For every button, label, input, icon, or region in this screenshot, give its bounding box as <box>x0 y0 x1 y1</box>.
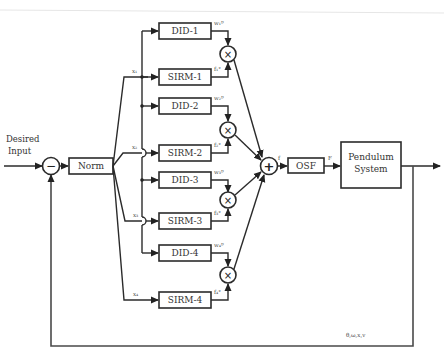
x2-label: x₂ <box>132 144 137 150</box>
w4-line <box>211 253 228 266</box>
f2-label: f₂° <box>214 142 221 148</box>
f3-label: f₃° <box>214 210 221 216</box>
multiply-sign: × <box>224 270 232 281</box>
block-diagram: Desired Input − Norm x₁ x₂ x₃ x₄ DID-1 S… <box>0 0 444 364</box>
bus-hop-x3 <box>142 217 146 225</box>
x3-label: x₃ <box>133 212 138 218</box>
f-label: f <box>278 155 281 161</box>
did-2-block: DID-2 <box>159 98 211 114</box>
sum-junction: + <box>261 158 278 175</box>
did-3-block: DID-3 <box>159 172 211 188</box>
f4-label: f₄° <box>214 289 221 295</box>
w3-label: w₃ᴰ <box>214 169 224 175</box>
w3-line <box>211 180 228 192</box>
bus-hop-x2 <box>142 149 146 157</box>
w1-line <box>211 31 228 45</box>
m1-to-sum <box>234 60 262 157</box>
sirm-4-label: SIRM-4 <box>168 295 203 305</box>
did-1-block: DID-1 <box>159 23 211 39</box>
sirm-1-label: SIRM-1 <box>168 72 202 82</box>
m4-to-sum <box>234 175 264 269</box>
multiplier-1: × <box>220 46 236 62</box>
did-1-label: DID-1 <box>172 26 199 36</box>
error-summing-junction: − <box>43 158 60 175</box>
did-2-label: DID-2 <box>172 101 199 111</box>
minus-sign: − <box>46 159 56 173</box>
did-3-label: DID-3 <box>172 175 199 185</box>
sirm-1-block: SIRM-1 <box>159 69 211 85</box>
sirm-3-label: SIRM-3 <box>168 216 203 226</box>
norm-block: Norm <box>69 158 113 174</box>
norm-label: Norm <box>78 161 105 171</box>
desired-input-label-line1: Desired <box>6 134 40 144</box>
multiply-sign: × <box>224 125 232 136</box>
top-border-line <box>0 10 444 13</box>
multiply-sign: × <box>224 195 232 206</box>
w2-line <box>211 106 228 121</box>
desired-input-label-line2: Input <box>8 146 32 156</box>
feedback-label: θ,ω,x,v <box>346 332 366 338</box>
pendulum-system-block: Pendulum System <box>341 142 401 188</box>
plus-sign: + <box>264 159 275 174</box>
x2-line <box>113 153 142 166</box>
x4-label: x₄ <box>133 291 139 297</box>
multiplier-3: × <box>220 192 236 208</box>
F-label: F <box>328 155 332 161</box>
w4-label: w₄ᴰ <box>214 242 224 248</box>
did-4-block: DID-4 <box>159 245 211 261</box>
osf-block: OSF <box>288 158 324 173</box>
sirm-2-label: SIRM-2 <box>168 148 202 158</box>
f1-label: f₁° <box>214 66 221 72</box>
pendulum-label-line1: Pendulum <box>348 152 394 162</box>
w2-label: w₂ᴰ <box>214 95 224 101</box>
pendulum-label-line2: System <box>354 164 388 174</box>
multiplier-4: × <box>220 267 236 283</box>
multiply-sign: × <box>224 49 232 60</box>
did-4-label: DID-4 <box>172 248 199 258</box>
multiplier-2: × <box>220 122 236 138</box>
m3-to-sum <box>235 172 261 195</box>
w1-label: w₁ᴰ <box>214 20 224 26</box>
sirm-3-block: SIRM-3 <box>159 213 211 229</box>
sirm-4-block: SIRM-4 <box>159 292 211 308</box>
x1-label: x₁ <box>132 68 137 74</box>
osf-label: OSF <box>296 161 316 171</box>
sirm-2-block: SIRM-2 <box>159 145 211 161</box>
x4-line <box>113 166 158 300</box>
